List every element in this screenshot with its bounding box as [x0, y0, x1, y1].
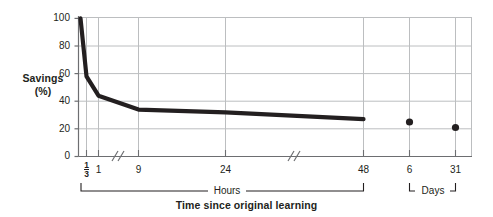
y-tick-label-80: 80: [40, 40, 70, 51]
y-tick-label-20: 20: [40, 123, 70, 134]
x-tick-label-9: 9: [124, 164, 154, 175]
y-tick-label-60: 60: [40, 68, 70, 79]
x-tick-label-1: 1: [84, 164, 114, 175]
x-tick-label-24: 24: [211, 164, 241, 175]
forgetting-curve-figure: Savings (%) Time since original learning…: [0, 0, 493, 217]
bracket-label-days: Days: [414, 185, 452, 196]
y-tick-label-100: 100: [40, 12, 70, 23]
x-tick-label-31: 31: [441, 164, 471, 175]
y-tick-label-0: 0: [40, 150, 70, 161]
x-axis-title: Time since original learning: [0, 199, 493, 211]
vertical-gridlines: [87, 18, 456, 157]
x-axis-ticks: [87, 150, 456, 157]
x-tick-label-6: 6: [395, 164, 425, 175]
data-point-6-days: [406, 118, 413, 125]
plot-frame: [78, 18, 472, 157]
x-tick-label-48: 48: [349, 164, 379, 175]
bracket-label-hours: Hours: [207, 185, 247, 196]
data-point-31-days: [452, 124, 459, 131]
savings-curve: [81, 18, 364, 119]
y-tick-label-40: 40: [40, 95, 70, 106]
